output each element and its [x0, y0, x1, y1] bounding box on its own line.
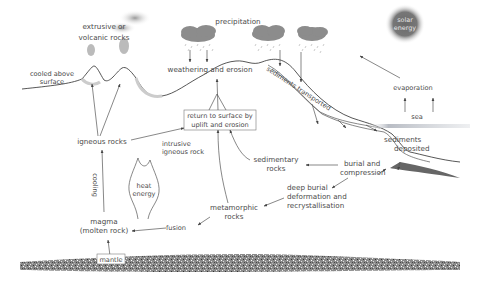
- sedimentary-rocks-label: sedimentary: [253, 155, 299, 164]
- rock-cycle-diagram: solar energy precipitation: [0, 0, 480, 283]
- svg-text:deformation and: deformation and: [287, 192, 347, 201]
- heat-energy-label: heat: [137, 182, 152, 190]
- svg-text:deposited: deposited: [394, 144, 430, 153]
- metamorphic-rocks-label: metamorphic: [210, 203, 258, 212]
- svg-text:energy: energy: [394, 24, 416, 32]
- rain-drops: [185, 44, 324, 53]
- svg-text:compression: compression: [340, 168, 386, 177]
- precipitation-label: precipitation: [215, 17, 260, 26]
- land-shading: [82, 78, 162, 96]
- svg-text:volcanic rocks: volcanic rocks: [79, 33, 130, 42]
- extrusive-label: extrusive or: [83, 22, 126, 31]
- sea: [368, 124, 470, 128]
- mantle-arrow: [108, 240, 110, 256]
- svg-text:energy: energy: [133, 190, 156, 198]
- sea-label: sea: [411, 113, 423, 121]
- return-to-surface-box: return to surface by uplift and erosion: [184, 110, 256, 130]
- sun-icon: solar energy: [385, 4, 425, 44]
- igneous-rocks-label: igneous rocks: [77, 137, 127, 146]
- cooling-label: cooling: [91, 173, 99, 197]
- intrusive-igneous-label: intrusive: [162, 140, 191, 148]
- svg-text:(molten rock): (molten rock): [80, 226, 129, 235]
- sediment-deposit: [390, 162, 460, 178]
- cloud-icon: [181, 25, 328, 42]
- svg-text:surface: surface: [40, 78, 64, 86]
- burial-compression-label: burial and: [344, 159, 380, 168]
- mantle-label: mantle: [99, 256, 122, 264]
- svg-text:rocks: rocks: [266, 164, 285, 173]
- cooling-arrow: [102, 150, 104, 212]
- mantle-layer: [20, 254, 460, 272]
- uplift-arrows: [209, 79, 226, 110]
- magma-label: magma: [90, 217, 117, 226]
- deep-burial-label: deep burial: [287, 183, 328, 192]
- svg-text:return to surface by: return to surface by: [187, 112, 253, 120]
- vapour-arrow: [360, 56, 400, 78]
- svg-text:uplift and erosion: uplift and erosion: [191, 121, 249, 129]
- sediments-deposited-label: sediments: [384, 135, 422, 144]
- weathering-erosion-label: weathering and erosion: [168, 65, 253, 74]
- metamorphic-uplift-arrow: [218, 130, 228, 203]
- svg-text:rocks: rocks: [224, 212, 243, 221]
- cooled-above-surface-label: cooled above: [30, 70, 74, 78]
- svg-text:recrystallisation: recrystallisation: [287, 201, 344, 210]
- evaporation-label: evaporation: [393, 84, 433, 92]
- fusion-label: fusion: [166, 224, 186, 232]
- svg-text:igneous rock: igneous rock: [162, 148, 204, 156]
- sediments-transported-label: sediments transported: [265, 65, 332, 113]
- solar-energy-label: solar: [397, 16, 413, 24]
